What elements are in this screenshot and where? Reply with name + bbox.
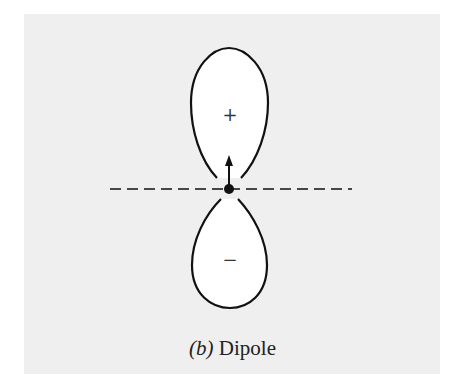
- caption-title: Dipole: [219, 336, 276, 360]
- figure-caption: (b) Dipole: [0, 336, 465, 361]
- dipole-diagram: [0, 0, 465, 389]
- center-dot: [224, 184, 234, 194]
- minus-sign: −: [222, 251, 237, 269]
- plus-sign: +: [222, 106, 237, 124]
- caption-label: (b): [189, 336, 214, 360]
